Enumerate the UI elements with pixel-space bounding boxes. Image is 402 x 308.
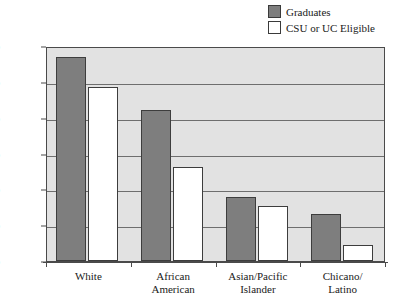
x-tick-mark bbox=[300, 262, 301, 267]
x-axis-label-line: Latino bbox=[300, 283, 385, 296]
legend-item-graduates: Graduates bbox=[268, 4, 400, 19]
x-axis-label: Chicano/Latino bbox=[300, 270, 385, 296]
x-axis-label-line: Asian/Pacific bbox=[216, 270, 301, 283]
bar-group bbox=[47, 48, 132, 261]
legend-label-graduates: Graduates bbox=[286, 6, 331, 18]
bars-layer bbox=[47, 48, 384, 261]
x-axis-label: Asian/PacificIslander bbox=[216, 270, 301, 296]
bar bbox=[311, 214, 341, 261]
bar bbox=[258, 206, 288, 261]
x-tick-mark bbox=[216, 262, 217, 267]
bar-group bbox=[301, 48, 386, 261]
bar-chart: Graduates CSU or UC Eligible 05010015020… bbox=[0, 0, 402, 308]
bar bbox=[173, 167, 203, 261]
bar bbox=[88, 87, 118, 261]
x-axis-label-line: American bbox=[131, 283, 216, 296]
legend-swatch-graduates bbox=[268, 5, 281, 18]
x-tick-mark bbox=[385, 262, 386, 267]
x-axis-label: AfricanAmerican bbox=[131, 270, 216, 296]
x-axis-label-line: African bbox=[131, 270, 216, 283]
bar-group bbox=[132, 48, 217, 261]
bar bbox=[141, 110, 171, 261]
y-axis: 050100150200250300 bbox=[0, 0, 46, 308]
plot-area bbox=[46, 47, 385, 262]
legend-item-csu-or-uc-eligible: CSU or UC Eligible bbox=[268, 20, 400, 35]
x-axis-label-line: Islander bbox=[216, 283, 301, 296]
x-axis-label-line: White bbox=[46, 270, 131, 283]
x-tick-mark bbox=[131, 262, 132, 267]
bar-group bbox=[217, 48, 302, 261]
chart-legend: Graduates CSU or UC Eligible bbox=[268, 4, 400, 36]
legend-swatch-csu-or-uc-eligible bbox=[268, 21, 281, 34]
legend-label-csu-or-uc-eligible: CSU or UC Eligible bbox=[286, 22, 375, 34]
bar bbox=[226, 197, 256, 262]
bar bbox=[56, 57, 86, 261]
x-axis-label: White bbox=[46, 270, 131, 283]
x-tick-mark bbox=[46, 262, 47, 267]
x-axis-label-line: Chicano/ bbox=[300, 270, 385, 283]
bar bbox=[343, 245, 373, 261]
